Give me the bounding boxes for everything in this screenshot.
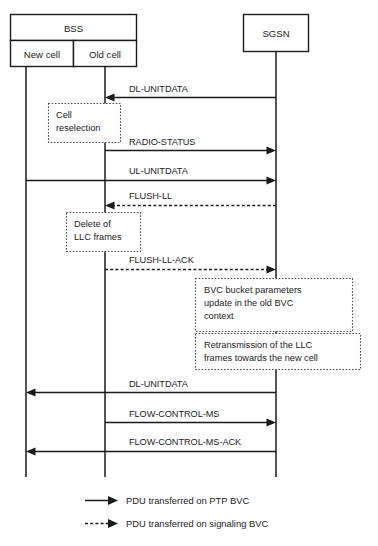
note-line-delete-llc-2: LLC frames [74,232,122,242]
message-label-flush-ll-ack: FLUSH-LL-ACK [129,255,195,265]
note-line-cell-reselection-2: reselection [56,123,100,133]
message-ul-unitdata: UL-UNITDATA [26,166,276,185]
message-label-dl-unitdata-1: DL-UNITDATA [129,84,189,94]
message-label-ul-unitdata: UL-UNITDATA [129,166,189,176]
note-line-bvc-1: BVC bucket parameters [204,285,302,295]
node-sgsn: SGSN [244,15,309,52]
message-flow-control-ms-ack: FLOW-CONTROL-MS-ACK [26,437,276,456]
arrowhead-dl-unitdata-1 [105,94,115,102]
message-flush-ll-ack: FLUSH-LL-ACK [105,255,276,274]
message-flow-control-ms: FLOW-CONTROL-MS [105,409,276,427]
node-old-cell: Old cell [74,41,137,67]
old-cell-label: Old cell [89,49,121,60]
legend: PDU transferred on PTP BVC PDU transferr… [85,495,268,529]
message-label-flow-control-ms: FLOW-CONTROL-MS [129,409,219,419]
note-cell-reselection: Cell reselection [49,104,121,143]
legend-arrowhead-solid [108,496,118,505]
legend-item-signaling-bvc: PDU transferred on signaling BVC [85,518,268,529]
sequence-diagram-canvas: BSS New cell Old cell SGSN DL-UNITDATA C… [0,0,378,546]
note-line-cell-reselection-1: Cell [56,110,72,120]
legend-arrowhead-dashed [108,519,118,528]
arrowhead-flush-ll-ack [267,266,277,274]
sequence-diagram: BSS New cell Old cell SGSN DL-UNITDATA C… [0,0,378,546]
bss-label: BSS [64,23,83,34]
note-bvc-bucket-parameters: BVC bucket parameters update in the old … [196,279,353,332]
legend-item-ptp-bvc: PDU transferred on PTP BVC [85,495,250,506]
arrowhead-dl-unitdata-2 [26,389,36,397]
arrowhead-flow-control-ms [267,419,277,427]
note-line-delete-llc-1: Delete of [74,219,111,229]
note-delete-llc-frames: Delete of LLC frames [67,213,141,252]
new-cell-label: New cell [24,49,60,60]
note-line-retransmission-2: frames towards the new cell [204,353,318,363]
message-label-flush-ll: FLUSH-LL [129,191,172,201]
arrowhead-radio-status [267,147,277,155]
note-line-bvc-3: context [204,311,234,321]
arrowhead-flush-ll [105,202,115,210]
message-label-flow-control-ms-ack: FLOW-CONTROL-MS-ACK [129,437,242,447]
arrowhead-ul-unitdata [267,177,277,185]
note-line-bvc-2: update in the old BVC [204,298,294,308]
sgsn-label: SGSN [262,28,289,39]
legend-label-ptp-bvc: PDU transferred on PTP BVC [126,495,250,506]
legend-label-signaling-bvc: PDU transferred on signaling BVC [126,518,268,529]
message-dl-unitdata-2: DL-UNITDATA [26,379,276,397]
note-box-retransmission [196,334,361,370]
arrowhead-flow-control-ms-ack [26,448,36,456]
note-retransmission-llc-frames: Retransmission of the LLC frames towards… [196,334,361,370]
message-flush-ll: FLUSH-LL [105,191,276,210]
message-dl-unitdata-1: DL-UNITDATA [105,84,276,102]
node-bss: BSS [11,15,137,41]
message-label-radio-status: RADIO-STATUS [129,137,195,147]
message-radio-status: RADIO-STATUS [105,137,276,155]
message-label-dl-unitdata-2: DL-UNITDATA [129,379,189,389]
node-new-cell: New cell [11,41,74,67]
note-line-retransmission-1: Retransmission of the LLC [204,340,313,350]
